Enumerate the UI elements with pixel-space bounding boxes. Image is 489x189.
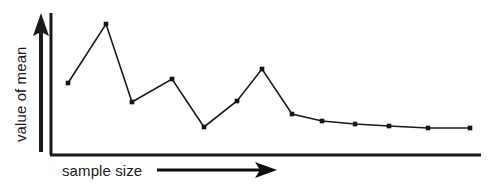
data-point [320, 119, 325, 124]
data-point [260, 67, 265, 72]
data-point [170, 77, 175, 82]
data-point [66, 81, 71, 86]
series-markers-running-mean [66, 22, 473, 131]
data-point [235, 99, 240, 104]
data-point [202, 125, 207, 130]
y-axis-direction-arrow [33, 13, 49, 152]
chart-figure: value of mean sample size [0, 0, 489, 189]
data-point [130, 100, 135, 105]
data-point [426, 126, 431, 131]
data-point [353, 122, 358, 127]
data-point [468, 126, 473, 131]
data-point [290, 112, 295, 117]
data-point [104, 22, 109, 27]
data-point [387, 124, 392, 129]
x-axis-direction-arrow [157, 162, 277, 178]
chart-canvas: value of mean sample size [0, 0, 489, 189]
y-axis-label: value of mean [12, 46, 29, 142]
x-axis-label: sample size [62, 162, 142, 179]
series-line-running-mean [68, 24, 470, 128]
